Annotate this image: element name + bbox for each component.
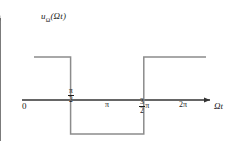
plot-canvas: [0, 0, 236, 163]
y-axis-label: uΩ(Ωt): [41, 12, 66, 23]
x-tick-three-halves-pi: 3 2 π: [139, 98, 149, 115]
x-tick-pi-over-2: π 2: [68, 87, 74, 104]
waveform-figure: uΩ(Ωt) 0 π 2 π 3 2 π 2π Ωt: [0, 0, 236, 163]
pi-suffix: π: [145, 102, 150, 110]
fraction-denominator: 2: [68, 96, 74, 104]
fraction-pi-over-2: π 2: [68, 87, 74, 104]
origin-label: 0: [22, 102, 27, 111]
square-wave-trace: [34, 57, 206, 134]
x-tick-two-pi: 2π: [179, 101, 187, 109]
x-tick-pi: π: [105, 101, 109, 109]
y-axis-label-argument: (Ωt): [50, 11, 66, 21]
x-axis-label: Ωt: [214, 102, 223, 111]
